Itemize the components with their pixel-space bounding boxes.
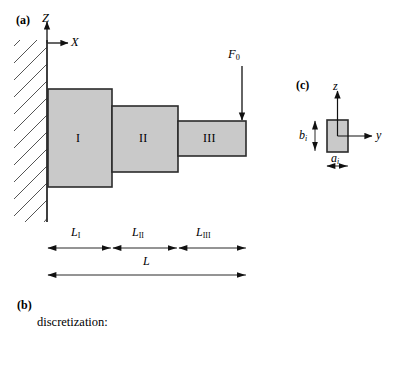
dimension-label-L-I: LI [71, 226, 80, 240]
dimension-label-L-total: L [143, 255, 150, 267]
block-label-III: III [203, 132, 216, 144]
dimension-label-L-II-sub: II [139, 231, 144, 240]
dimension-label-a-i: ai [331, 152, 339, 166]
dimension-label-L-III-base: L [196, 225, 203, 239]
axis-y-local-label: y [376, 129, 381, 141]
figure-vector-layer [0, 0, 403, 365]
cross-section-group [315, 91, 372, 166]
axis-z-label: Z [42, 12, 49, 25]
block-label-I: I [76, 132, 80, 144]
figure-canvas: (a) Z X I II III F0 LI LII LIII L (b) di… [0, 0, 403, 365]
panel-b-tag: (b) [17, 299, 32, 311]
panel-b-caption: discretization: [37, 316, 108, 329]
dimension-label-L-III-sub: III [203, 231, 211, 240]
force-label: F0 [228, 48, 240, 63]
coordinate-axes-global [47, 22, 68, 43]
panel-a-tag: (a) [16, 14, 30, 26]
dimension-label-b-i-sub: i [305, 134, 307, 143]
fixed-support-wall [2, 30, 53, 262]
dimension-label-L-I-sub: I [78, 231, 81, 240]
dimension-label-L-II-base: L [132, 225, 139, 239]
axis-x-label: X [71, 36, 79, 49]
force-label-sub: 0 [236, 53, 240, 62]
dimension-label-a-i-sub: i [337, 157, 339, 166]
panel-c-tag: (c) [296, 79, 309, 91]
block-label-II: II [139, 132, 148, 144]
dimension-label-b-i: bi [299, 129, 307, 143]
dimension-label-L-II: LII [132, 226, 144, 240]
axis-z-local-label: z [333, 80, 338, 92]
dimension-label-L-I-base: L [71, 225, 78, 239]
force-label-base: F [228, 47, 236, 61]
wall-hatching [2, 30, 53, 262]
dimension-label-L-III: LIII [196, 226, 211, 240]
